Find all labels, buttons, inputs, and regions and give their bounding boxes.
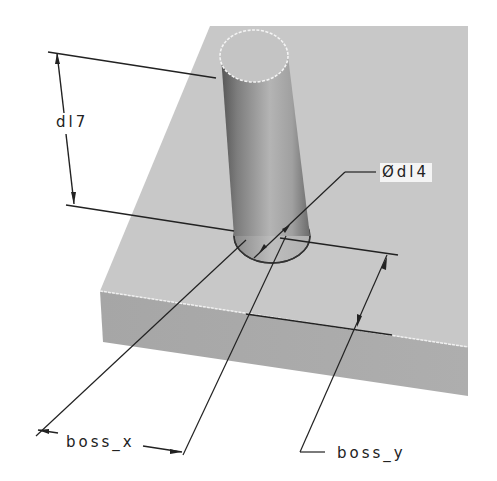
d17-label[interactable]: dl7: [56, 115, 88, 130]
cad-model-canvas: [0, 0, 497, 481]
cylinder-top-face: [220, 30, 288, 82]
boss-y-label[interactable]: boss_y: [337, 446, 406, 461]
d17-extension-top: [48, 52, 216, 78]
d14-label[interactable]: Ødl4: [380, 163, 432, 182]
boss-x-label[interactable]: boss_x: [66, 435, 135, 450]
